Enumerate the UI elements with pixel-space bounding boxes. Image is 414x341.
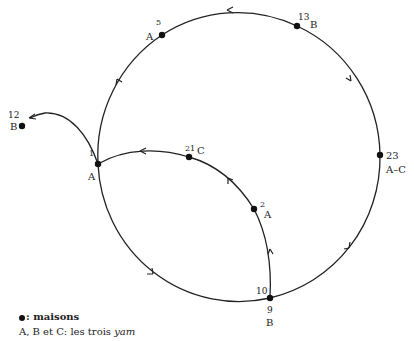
edge-23-to-13 [297, 26, 380, 155]
node-10-9-group: B [266, 318, 273, 328]
house-dot-5 [159, 32, 165, 38]
legend-houses: : maisons [19, 311, 79, 322]
legend-groups-prefix: A, B et C: les trois [19, 326, 114, 337]
node-21-number: 21 [185, 144, 195, 154]
edge-5-to-1 [98, 35, 162, 164]
node-12-number: 12 [8, 110, 19, 120]
legend-groups-term: yam [114, 326, 135, 337]
house-dot-12 [19, 123, 25, 129]
node-23-group: A–C [386, 165, 406, 175]
node-13-group: B [310, 20, 317, 30]
house-dot-1 [95, 161, 101, 167]
edge-13-to-5 [162, 13, 297, 35]
arrow-icon [227, 7, 233, 13]
node-9-number: 9 [267, 305, 273, 315]
arrow-icon [346, 75, 351, 81]
node-21-group: C [197, 146, 205, 156]
node-5-group: A [146, 32, 153, 42]
node-1-group: A [88, 172, 95, 182]
house-dot-21 [186, 154, 192, 160]
kinship-cycle-diagram [0, 0, 414, 341]
arrow-icon [344, 242, 350, 249]
house-dot-icon [19, 315, 25, 321]
house-dot-23 [377, 152, 383, 158]
house-dot-10-9 [267, 295, 273, 301]
legend-groups: A, B et C: les trois yam [19, 326, 135, 337]
arrow-icon [268, 249, 273, 254]
house-dot-13 [294, 23, 300, 29]
edge-1-to-12 [30, 113, 98, 164]
node-23-number: 23 [386, 151, 399, 161]
node-5-number: 5 [156, 18, 161, 28]
edge-1-to-10 [98, 164, 270, 302]
edge-2-to-21 [189, 157, 254, 209]
node-13-number: 13 [298, 12, 309, 22]
node-10-number: 10 [256, 286, 267, 296]
legend-houses-label: : maisons [26, 311, 79, 322]
node-2-group: A [264, 210, 271, 220]
node-1-number: 1 [89, 149, 94, 159]
edge-10-to-23 [270, 155, 380, 298]
node-12-group: B [10, 122, 17, 132]
house-dot-2 [251, 206, 257, 212]
